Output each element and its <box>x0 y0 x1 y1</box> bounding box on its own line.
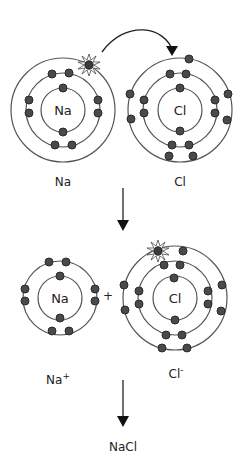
sodium-nucleus-label: Na <box>54 103 72 118</box>
sodium-atom: Na <box>11 54 115 162</box>
received-electron-starburst-icon <box>147 240 169 262</box>
diagram-canvas: Na Cl Na Cl <box>0 0 246 473</box>
electron-transfer-arrow <box>102 30 173 52</box>
sodium-ion: Na <box>21 258 99 335</box>
reaction-arrowhead-2-icon <box>117 416 129 427</box>
chlorine-atom-label: Cl <box>174 175 186 189</box>
chloride-ion-nucleus-label: Cl <box>169 291 182 306</box>
sodium-ion-label: Na+ <box>46 371 70 387</box>
plus-sign: + <box>103 289 113 303</box>
reaction-arrowhead-1-icon <box>117 220 129 231</box>
chloride-ion: Cl <box>120 240 227 352</box>
transferred-electron-starburst-icon <box>78 54 100 76</box>
sodium-atom-label: Na <box>55 175 71 189</box>
chlorine-atom: Cl <box>126 55 232 162</box>
sodium-ion-nucleus-label: Na <box>51 291 69 306</box>
product-label: NaCl <box>109 440 137 454</box>
chlorine-nucleus-label: Cl <box>174 103 187 118</box>
chloride-ion-label: Cl- <box>169 365 184 381</box>
transfer-arrowhead-icon <box>166 46 178 56</box>
